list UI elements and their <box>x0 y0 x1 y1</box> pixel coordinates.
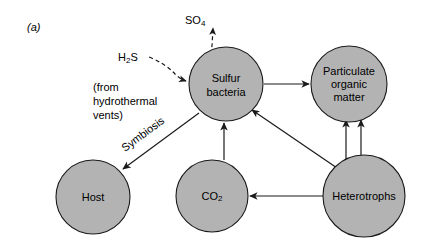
sulfide-label: H2S <box>118 51 138 65</box>
figure-panel: Sulfur bacteria Particulate organic matt… <box>0 0 422 252</box>
symbiosis-edge-label: Symbiosis <box>119 114 167 154</box>
diagram-canvas: Sulfur bacteria Particulate organic matt… <box>0 0 422 252</box>
source-note-line-3: vents) <box>93 109 123 121</box>
pom-label-line2: organic <box>331 78 368 90</box>
heterotrophs-label: Heterotrophs <box>332 190 396 202</box>
pom-label-line1: Particulate <box>323 65 375 77</box>
co2-label-main: CO <box>202 190 219 202</box>
sulfur-bacteria-label-line1: Sulfur <box>212 72 241 84</box>
panel-label: (a) <box>27 21 41 33</box>
pom-label-line3: matter <box>333 91 365 103</box>
node-co2[interactable]: CO2 <box>176 160 248 232</box>
sulfate-label-main: SO <box>185 14 201 26</box>
node-heterotrophs[interactable]: Heterotrophs <box>323 155 405 237</box>
sulfate-label: SO4 <box>185 14 206 28</box>
source-note-line-2: hydrothermal <box>93 95 157 107</box>
edge-sulfide-input <box>149 57 186 81</box>
source-note-line-1: (from <box>93 81 119 93</box>
edge-heterotrophs-to-sulfur-bacteria <box>252 110 340 170</box>
sulfate-label-subscript: 4 <box>201 19 206 28</box>
host-label: Host <box>82 191 105 203</box>
sulfide-label-main: H <box>118 51 126 63</box>
sulfur-bacteria-circle[interactable] <box>189 47 263 121</box>
co2-label-subscript: 2 <box>218 194 223 203</box>
node-particulate-organic-matter[interactable]: Particulate organic matter <box>311 46 387 122</box>
node-sulfur-bacteria[interactable]: Sulfur bacteria <box>189 47 263 121</box>
node-host[interactable]: Host <box>56 160 130 234</box>
sulfide-label-tail: S <box>130 51 137 63</box>
sulfur-bacteria-label-line2: bacteria <box>206 86 246 98</box>
